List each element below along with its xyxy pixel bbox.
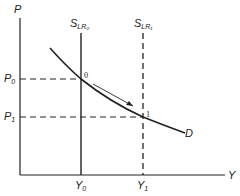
diagram-canvas [0, 0, 240, 196]
demand-label: D [185, 128, 193, 139]
supply-lr0-label: SLR₀ [70, 18, 89, 30]
equilibrium-point-1: 1 [146, 111, 150, 119]
movement-arrow [93, 84, 133, 106]
y-axis-label: P [14, 4, 21, 15]
p0-label: P0 [4, 73, 15, 85]
arrow-head-icon [126, 101, 133, 106]
y0-label: Y0 [75, 180, 86, 192]
y1-label: Y1 [137, 180, 148, 192]
supply-lr1-label: SLR₁ [134, 18, 153, 30]
p1-label: P1 [4, 111, 15, 123]
demand-curve [50, 48, 185, 133]
x-axis-label: Y [228, 170, 235, 181]
equilibrium-point-0: 0 [84, 72, 88, 80]
